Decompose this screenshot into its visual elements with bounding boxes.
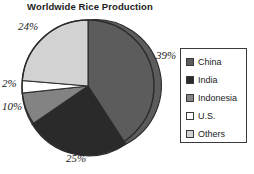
legend-swatch-india bbox=[186, 76, 194, 84]
legend-item-china[interactable]: China bbox=[186, 53, 246, 71]
slice-label-china: 39% bbox=[156, 50, 176, 61]
legend-swatch-us bbox=[186, 112, 194, 120]
slice-label-others: 24% bbox=[18, 21, 38, 32]
legend-label-india: India bbox=[198, 75, 218, 85]
legend-swatch-others bbox=[186, 130, 194, 138]
legend-item-indonesia[interactable]: Indonesia bbox=[186, 89, 246, 107]
pie-chart-figure: Worldwide Rice Production 39% 25% 10% 2%… bbox=[0, 0, 254, 174]
legend-label-indonesia: Indonesia bbox=[198, 93, 237, 103]
legend-label-us: U.S. bbox=[198, 111, 216, 121]
legend-label-china: China bbox=[198, 57, 222, 67]
legend-item-us[interactable]: U.S. bbox=[186, 107, 246, 125]
chart-legend: China India Indonesia U.S. Others bbox=[180, 48, 247, 143]
legend-swatch-china bbox=[186, 58, 194, 66]
pie-slices bbox=[22, 20, 161, 156]
slice-label-india: 25% bbox=[66, 153, 86, 164]
legend-swatch-indonesia bbox=[186, 94, 194, 102]
slice-label-indonesia: 10% bbox=[2, 101, 22, 112]
legend-item-others[interactable]: Others bbox=[186, 125, 246, 143]
legend-item-india[interactable]: India bbox=[186, 71, 246, 89]
slice-label-us: 2% bbox=[2, 78, 17, 89]
legend-label-others: Others bbox=[198, 129, 225, 139]
